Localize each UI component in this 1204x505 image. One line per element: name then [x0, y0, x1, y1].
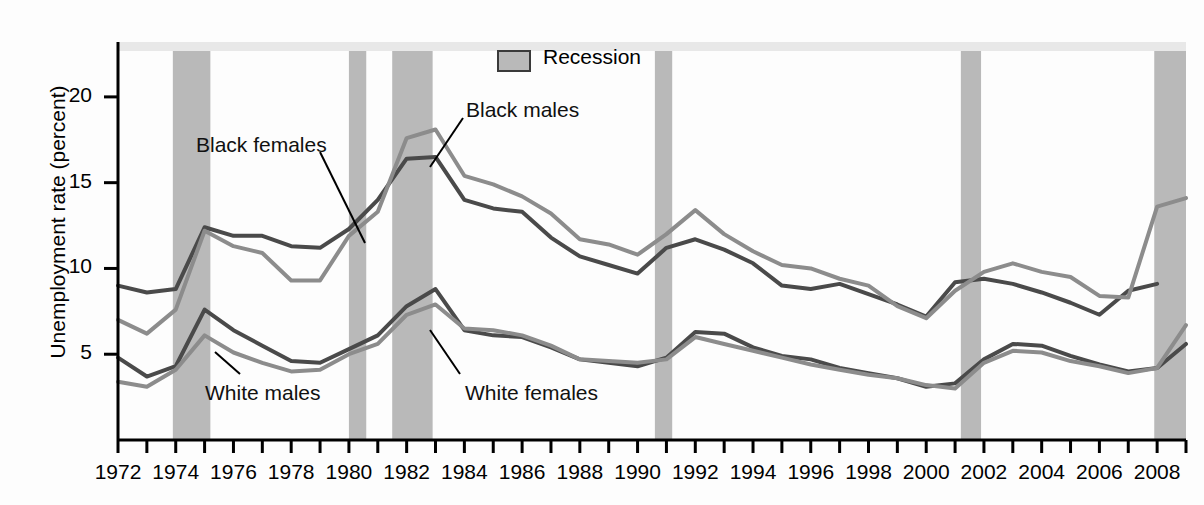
x-tick-label-1996: 1996	[781, 460, 841, 484]
x-tick-label-2006: 2006	[1069, 460, 1129, 484]
recession-legend-swatch	[497, 50, 531, 72]
y-tick-label-5: 5	[48, 340, 92, 364]
x-tick-label-2008: 2008	[1127, 460, 1187, 484]
x-tick-label-1998: 1998	[838, 460, 898, 484]
series-line-black-females	[118, 129, 1186, 333]
x-tick-label-1974: 1974	[146, 460, 206, 484]
annotation-label-white-males: White males	[205, 381, 321, 405]
annotation-label-white-females: White females	[465, 381, 598, 405]
y-tick-label-10: 10	[48, 254, 92, 278]
x-tick-label-1984: 1984	[434, 460, 494, 484]
plot-top-strip	[118, 42, 1186, 51]
x-tick-label-1994: 1994	[723, 460, 783, 484]
x-tick-label-1978: 1978	[261, 460, 321, 484]
x-tick-label-2004: 2004	[1012, 460, 1072, 484]
recession-legend-label: Recession	[543, 45, 641, 69]
y-tick-label-15: 15	[48, 169, 92, 193]
x-tick-label-1982: 1982	[377, 460, 437, 484]
x-tick-label-1992: 1992	[665, 460, 725, 484]
x-tick-label-1986: 1986	[492, 460, 552, 484]
series-line-black-males	[118, 157, 1157, 317]
x-tick-label-1972: 1972	[88, 460, 148, 484]
series-line-white-males	[118, 289, 1186, 387]
x-tick-label-1980: 1980	[319, 460, 379, 484]
chart-plot-area	[0, 0, 1204, 505]
annotation-leader-white-females	[430, 330, 460, 374]
y-tick-label-20: 20	[48, 83, 92, 107]
annotation-label-black-males: Black males	[466, 98, 579, 122]
x-tick-label-1988: 1988	[550, 460, 610, 484]
annotation-leader-black-males	[430, 118, 463, 167]
x-tick-label-1976: 1976	[203, 460, 263, 484]
recession-band	[392, 42, 432, 440]
recession-band	[1154, 42, 1186, 440]
x-tick-label-1990: 1990	[608, 460, 668, 484]
chart-figure: Unemployment rate (percent) Recession Bl…	[0, 0, 1204, 505]
x-tick-label-2000: 2000	[896, 460, 956, 484]
x-tick-label-2002: 2002	[954, 460, 1014, 484]
annotation-label-black-females: Black females	[196, 133, 327, 157]
